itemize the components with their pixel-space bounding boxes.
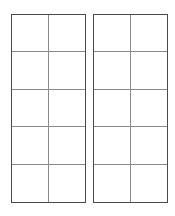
grid-cell — [49, 127, 86, 164]
grid-cell — [131, 52, 168, 89]
grid-cell — [49, 15, 86, 52]
grid-cell — [131, 165, 168, 202]
grid-cell — [12, 15, 49, 52]
grid-cell — [12, 127, 49, 164]
grid-cell — [12, 165, 49, 202]
grid-cell — [94, 90, 131, 127]
right-grid-panel — [93, 14, 168, 203]
grid-cell — [131, 127, 168, 164]
grid-cell — [94, 127, 131, 164]
grid-cell — [94, 165, 131, 202]
grid-cell — [94, 15, 131, 52]
grid-cell — [12, 90, 49, 127]
grid-cell — [131, 15, 168, 52]
grid-cell — [49, 52, 86, 89]
grid-cell — [94, 52, 131, 89]
left-grid-panel — [11, 14, 86, 203]
grid-cell — [12, 52, 49, 89]
grid-cell — [131, 90, 168, 127]
diagram-canvas — [0, 0, 175, 216]
grid-cell — [49, 165, 86, 202]
grid-cell — [49, 90, 86, 127]
